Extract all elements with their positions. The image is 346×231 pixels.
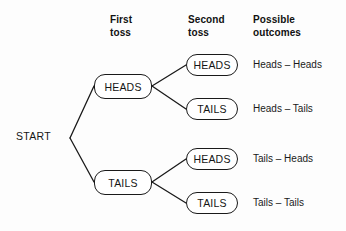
column-header-possible-outcomes: Possible outcomes — [253, 13, 343, 39]
column-header-first-toss: First toss — [110, 13, 172, 39]
branch-start-to-heads — [70, 86, 94, 138]
branch-tails-to-tails — [152, 182, 186, 203]
branch-heads-to-heads — [152, 65, 186, 86]
node-first-toss-heads[interactable]: HEADS — [94, 74, 152, 99]
node-second-toss-heads-lower[interactable]: HEADS — [186, 148, 238, 170]
column-header-second-toss: Second toss — [188, 13, 252, 39]
start-label: START — [16, 130, 51, 142]
node-second-toss-heads-upper[interactable]: HEADS — [186, 54, 238, 76]
tree-diagram-canvas: First toss Second toss Possible outcomes… — [0, 0, 346, 231]
outcome-tails-tails: Tails – Tails — [253, 197, 304, 208]
node-second-toss-tails-lower[interactable]: TAILS — [186, 192, 238, 214]
branch-heads-to-tails — [152, 86, 186, 109]
outcome-heads-heads: Heads – Heads — [253, 59, 322, 70]
outcome-heads-tails: Heads – Tails — [253, 103, 313, 114]
branch-tails-to-heads — [152, 159, 186, 182]
node-first-toss-tails[interactable]: TAILS — [94, 170, 152, 195]
node-second-toss-tails-upper[interactable]: TAILS — [186, 98, 238, 120]
outcome-tails-heads: Tails – Heads — [253, 153, 313, 164]
branch-start-to-tails — [70, 138, 94, 182]
